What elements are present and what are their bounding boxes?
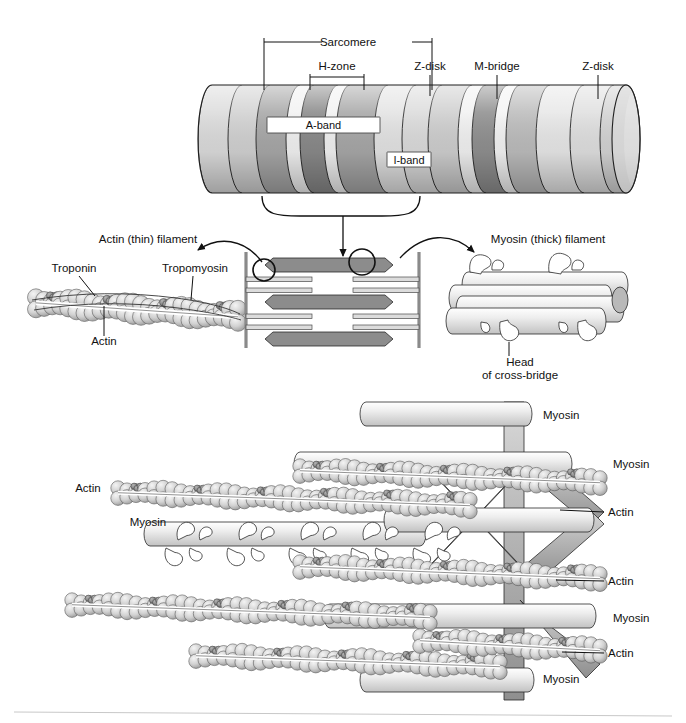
- band-label-a-band: A-band: [267, 117, 380, 133]
- callout-cross-bridge-head: Head of cross-bridge: [482, 342, 558, 381]
- sarcomere-figure: Sarcomere H-zone Z-disk M-bridge Z-disk …: [0, 0, 686, 723]
- thin-filament-r1: [353, 277, 419, 282]
- label-h-zone: H-zone: [318, 60, 355, 72]
- lattice-actin-row-3: [65, 592, 437, 630]
- label-actin-lattice-left: Actin: [75, 482, 101, 494]
- footer-rule: [14, 712, 672, 716]
- callout-myosin-r3: Myosin: [613, 612, 649, 624]
- callout-myosin-lattice-left: Myosin: [130, 516, 166, 528]
- myosin-head-lower-b-4: [437, 548, 450, 561]
- label-z-disk-2: Z-disk: [582, 60, 614, 72]
- callout-myosin-r2: Myosin: [613, 458, 649, 470]
- myofibril-cylinder-panel: Sarcomere H-zone Z-disk M-bridge Z-disk …: [198, 36, 642, 193]
- arrow-to-actin: [198, 241, 262, 262]
- cylinder-right-cap: [612, 85, 640, 193]
- actin-detail-strand: [28, 289, 247, 332]
- sarcomere-schematic-panel: [246, 249, 419, 348]
- myosin-head-lower-b-0: [189, 548, 202, 561]
- thick-filament-1: [265, 258, 393, 272]
- label-actin-r3: Actin: [608, 647, 634, 659]
- thin-filament-r4: [353, 325, 419, 330]
- label-sarcomere: Sarcomere: [320, 36, 376, 48]
- myosin-bare-zone-cap: [612, 287, 628, 313]
- label-cross-bridge-line1: Head: [506, 356, 534, 368]
- label-i-band: I-band: [393, 154, 424, 166]
- title-actin-filament: Actin (thin) filament: [99, 233, 198, 245]
- callout-actin-lattice-left: Actin: [75, 482, 101, 494]
- band-label-i-band: I-band: [387, 152, 431, 167]
- label-z-disk-1: Z-disk: [414, 60, 446, 72]
- callout-myosin-r4: Myosin: [543, 673, 579, 685]
- thin-filament-l3: [246, 314, 312, 319]
- thin-filament-l2: [246, 288, 312, 293]
- label-actin-r1: Actin: [608, 506, 634, 518]
- lattice-actin-strands: [65, 459, 607, 680]
- cylinder-bands: [198, 85, 642, 193]
- actin-bead-strands: [28, 289, 247, 332]
- myosin-head-lower-0: [165, 548, 183, 566]
- thick-filament-3: [265, 332, 393, 346]
- label-myosin-r1: Myosin: [543, 409, 579, 421]
- actin-thin-filament-panel: Actin (thin) filament Troponin Tropomyos…: [28, 233, 247, 347]
- label-myosin-r2: Myosin: [613, 458, 649, 470]
- label-m-bridge: M-bridge: [474, 60, 519, 72]
- title-myosin-filament: Myosin (thick) filament: [491, 233, 606, 245]
- thick-filaments: [265, 258, 393, 346]
- myosin-head-lower-1: [227, 548, 245, 566]
- bracket-right-arm: [343, 196, 420, 216]
- connector-arrows: [198, 196, 474, 262]
- callout-myosin-r1: Myosin: [543, 409, 579, 421]
- thin-filament-l4: [246, 325, 312, 330]
- label-a-band: A-band: [306, 119, 341, 131]
- thin-filament-r3: [353, 314, 419, 319]
- label-actin-r2: Actin: [608, 575, 634, 587]
- callout-tropomyosin: Tropomyosin: [162, 262, 228, 300]
- myosin-head-lower-b-3: [375, 548, 388, 561]
- arrow-to-myosin: [400, 238, 474, 258]
- label-troponin: Troponin: [52, 262, 97, 274]
- myosin-head-lower-b-1: [251, 548, 264, 561]
- thick-filament-2: [265, 295, 393, 309]
- label-actin-detail: Actin: [91, 335, 117, 347]
- three-d-lattice-panel: Actin Myosin Myosin Myosin Actin Actin M…: [65, 402, 650, 700]
- thin-filament-r2: [353, 288, 419, 293]
- label-myosin-r3: Myosin: [613, 612, 649, 624]
- label-cross-bridge-line2: of cross-bridge: [482, 369, 558, 381]
- lattice-myosin-rod-top: [360, 402, 532, 426]
- label-myosin-lattice-left: Myosin: [130, 516, 166, 528]
- myosin-rods: [446, 272, 628, 334]
- figure-canvas: Sarcomere H-zone Z-disk M-bridge Z-disk …: [0, 0, 686, 723]
- bracket-left-arm: [262, 196, 343, 216]
- label-myosin-r4: Myosin: [543, 673, 579, 685]
- label-tropomyosin: Tropomyosin: [162, 262, 228, 274]
- myosin-thick-filament-panel: Myosin (thick) filament Head of cross-br: [446, 233, 628, 381]
